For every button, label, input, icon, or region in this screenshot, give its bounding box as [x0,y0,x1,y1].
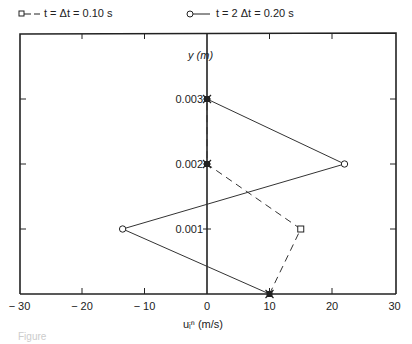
axis-ticks: − 30− 20− 1001020300.0010.0020.003 [9,34,401,312]
x-tick-label: 30 [388,300,400,312]
x-axis-label: uᵢⁿ (m/s) [183,318,223,330]
x-tick-label: − 20 [71,300,93,312]
x-tick-label: 20 [326,300,338,312]
square-marker [298,226,304,232]
y-axis-label: y (m) [187,49,213,61]
x-tick-label: − 30 [9,300,31,312]
circle-marker [341,161,347,167]
y-tick-label: 0.003 [175,93,203,105]
x-tick-label: 10 [263,300,275,312]
x-tick-label: − 10 [134,300,156,312]
y-tick-label: 0.001 [175,223,203,235]
chart: − 30− 20− 1001020300.0010.0020.003 y (m)… [0,0,412,344]
circle-marker [119,226,125,232]
data-series [119,95,347,298]
figure-caption: Figure [18,331,46,342]
x-tick-label: 0 [204,300,210,312]
y-tick-label: 0.002 [175,158,203,170]
